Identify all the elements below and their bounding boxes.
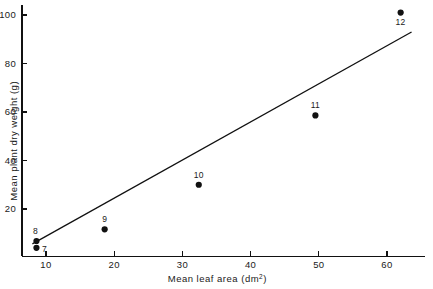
x-tick-label-60: 60 [381, 259, 392, 270]
data-point-11 [312, 112, 318, 118]
fit-line [32, 32, 411, 244]
data-point-label-7: 7 [42, 244, 47, 254]
data-point-label-9: 9 [102, 214, 107, 224]
x-tick-label-20: 20 [109, 259, 120, 270]
data-point-label-10: 10 [194, 170, 204, 180]
data-point-labels: 789101112 [33, 17, 406, 254]
x-tick-label-40: 40 [245, 259, 256, 270]
x-tick-label-10: 10 [40, 259, 51, 270]
axes [22, 5, 424, 256]
x-axis-title: Mean leaf area (dm2) [168, 273, 267, 284]
x-axis-title-base: Mean leaf area (dm [168, 273, 259, 284]
tick-marks [22, 15, 387, 256]
data-point-10 [196, 182, 202, 188]
chart-figure: 20406080100102030405060 789101112 Mean p… [0, 0, 433, 289]
data-point-8 [33, 238, 39, 244]
x-tick-label-50: 50 [313, 259, 324, 270]
tick-labels: 20406080100102030405060 [0, 9, 393, 270]
scatter-plot: 20406080100102030405060 789101112 Mean p… [0, 0, 433, 289]
data-point-7 [33, 245, 39, 251]
regression-line [32, 32, 411, 244]
data-point-9 [102, 226, 108, 232]
data-point-label-12: 12 [396, 17, 406, 27]
data-point-label-8: 8 [33, 226, 38, 236]
y-tick-label-100: 100 [0, 9, 16, 20]
x-axis-title-tail: ) [263, 273, 267, 284]
data-points [33, 9, 403, 250]
y-axis-title: Mean plant dry weight (g) [8, 81, 19, 201]
y-tick-label-80: 80 [5, 58, 16, 69]
y-tick-label-20: 20 [5, 203, 16, 214]
data-point-12 [398, 9, 404, 15]
x-tick-label-30: 30 [177, 259, 188, 270]
data-point-label-11: 11 [311, 100, 320, 110]
